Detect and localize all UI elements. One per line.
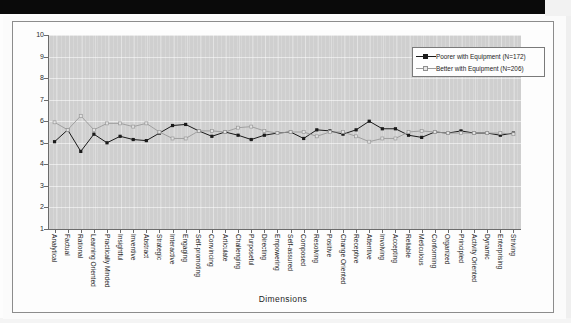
x-axis-tick-label: Convincing bbox=[208, 234, 215, 267]
x-axis-tick-label: Challenging bbox=[234, 234, 241, 269]
data-point-marker bbox=[355, 128, 358, 131]
x-axis-tick-label: Conforming bbox=[431, 234, 438, 268]
x-axis-tick-label: Practically Minded bbox=[103, 234, 110, 288]
data-point-marker bbox=[53, 121, 56, 124]
data-point-marker bbox=[381, 137, 384, 140]
x-axis-tick-label: Resolving bbox=[313, 234, 320, 263]
x-axis-tick-mark bbox=[173, 229, 174, 233]
x-axis-tick-mark bbox=[500, 229, 501, 233]
data-point-marker bbox=[158, 131, 161, 134]
x-axis-tick-label: Accepting bbox=[391, 234, 398, 263]
x-axis-tick-mark bbox=[94, 229, 95, 233]
x-axis-tick-label: Insightful bbox=[116, 234, 123, 260]
data-point-marker bbox=[210, 129, 213, 132]
x-axis-tick-label: Interactive bbox=[169, 234, 176, 264]
scanned-page: Poorer with Equipment (N=172) Better wit… bbox=[0, 0, 571, 323]
x-axis-tick-label: Organized bbox=[444, 234, 451, 264]
data-point-marker bbox=[342, 131, 345, 134]
y-axis-tick-label: 9 bbox=[18, 53, 44, 60]
y-axis-tick-label: 8 bbox=[18, 74, 44, 81]
data-point-marker bbox=[106, 122, 109, 125]
y-axis-tick-mark bbox=[44, 100, 48, 101]
plot-wrapper: Poorer with Equipment (N=172) Better wit… bbox=[13, 22, 553, 312]
data-point-marker bbox=[184, 137, 187, 140]
y-axis-tick-label: 3 bbox=[18, 182, 44, 189]
x-axis-title: Dimensions bbox=[13, 294, 553, 304]
x-axis-tick-label: Involving bbox=[378, 234, 385, 260]
data-point-marker bbox=[276, 132, 279, 135]
data-point-marker bbox=[263, 134, 266, 137]
y-axis-tick-label: 6 bbox=[18, 117, 44, 124]
chart-legend: Poorer with Equipment (N=172) Better wit… bbox=[412, 47, 545, 77]
data-point-marker bbox=[184, 123, 187, 126]
x-axis-tick-mark bbox=[55, 229, 56, 233]
data-point-marker bbox=[407, 131, 410, 134]
data-point-marker bbox=[250, 138, 253, 141]
data-point-marker bbox=[499, 132, 502, 135]
data-point-marker bbox=[289, 131, 292, 134]
data-point-marker bbox=[79, 150, 82, 153]
x-axis-tick-label: Self-assured bbox=[287, 234, 294, 271]
x-axis-tick-mark bbox=[422, 229, 423, 233]
data-point-marker bbox=[420, 136, 423, 139]
y-axis-tick-label: 4 bbox=[18, 160, 44, 167]
data-point-marker bbox=[368, 140, 371, 143]
x-axis-tick-label: Purposeful bbox=[247, 234, 254, 266]
x-axis-tick-mark bbox=[107, 229, 108, 233]
data-point-marker bbox=[394, 137, 397, 140]
x-axis-tick-label: Factual bbox=[64, 234, 71, 256]
data-point-marker bbox=[197, 129, 200, 132]
x-axis-tick-label: Articulate bbox=[221, 234, 228, 262]
x-axis-tick-mark bbox=[146, 229, 147, 233]
y-axis-tick-label: 7 bbox=[18, 96, 44, 103]
x-axis-tick-mark bbox=[435, 229, 436, 233]
x-axis-tick-label: Engaging bbox=[182, 234, 189, 262]
data-point-marker bbox=[92, 133, 95, 136]
y-axis-tick-mark bbox=[44, 78, 48, 79]
data-point-marker bbox=[315, 135, 318, 138]
data-point-marker bbox=[512, 133, 515, 136]
data-point-marker bbox=[210, 135, 213, 138]
x-axis-tick-mark bbox=[81, 229, 82, 233]
x-axis-tick-label: Reliable bbox=[405, 234, 412, 258]
x-axis-tick-label: Change Oriented bbox=[339, 234, 346, 284]
x-axis-tick-label: Activity Oriented bbox=[470, 234, 477, 282]
x-axis-tick-label: Empowering bbox=[273, 234, 280, 271]
y-axis-tick-mark bbox=[44, 164, 48, 165]
legend-label-better: Better with Equipment (N=206) bbox=[436, 65, 524, 72]
x-axis-tick-label: Abstract bbox=[142, 234, 149, 258]
y-axis-tick-mark bbox=[44, 57, 48, 58]
y-axis-tick-mark bbox=[44, 207, 48, 208]
x-axis-tick-mark bbox=[356, 229, 357, 233]
data-point-marker bbox=[119, 135, 122, 138]
x-axis-tick-label: Principled bbox=[457, 234, 464, 263]
x-axis-tick-mark bbox=[369, 229, 370, 233]
x-axis-tick-mark bbox=[199, 229, 200, 233]
x-axis-tick-mark bbox=[304, 229, 305, 233]
x-axis-tick-mark bbox=[212, 229, 213, 233]
data-point-marker bbox=[250, 125, 253, 128]
x-axis-tick-mark bbox=[186, 229, 187, 233]
x-axis-tick-mark bbox=[251, 229, 252, 233]
data-point-marker bbox=[132, 138, 135, 141]
y-axis-tick-mark bbox=[44, 35, 48, 36]
x-axis-tick-mark bbox=[238, 229, 239, 233]
x-axis-tick-label: Self-promoting bbox=[195, 234, 202, 277]
data-point-marker bbox=[433, 131, 436, 134]
data-point-marker bbox=[368, 120, 371, 123]
data-point-marker bbox=[171, 137, 174, 140]
data-point-marker bbox=[92, 128, 95, 131]
x-axis-tick-label: Receptive bbox=[352, 234, 359, 263]
data-point-marker bbox=[407, 134, 410, 137]
x-axis-tick-mark bbox=[120, 229, 121, 233]
x-axis-tick-mark bbox=[474, 229, 475, 233]
legend-marker-filled-square-icon bbox=[416, 52, 436, 61]
x-axis-tick-mark bbox=[487, 229, 488, 233]
x-axis-tick-mark bbox=[382, 229, 383, 233]
data-point-marker bbox=[224, 131, 227, 134]
y-axis-tick-label: 10 bbox=[18, 31, 44, 38]
series-line bbox=[55, 116, 514, 142]
legend-item-better: Better with Equipment (N=206) bbox=[416, 63, 540, 73]
data-point-marker bbox=[302, 131, 305, 134]
x-axis-tick-label: Attentive bbox=[365, 234, 372, 260]
